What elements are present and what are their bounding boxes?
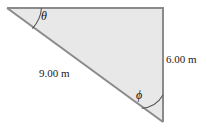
triangle-svg <box>0 0 207 132</box>
right-triangle-figure: 6.00 m 9.00 m θ ϕ <box>0 0 207 132</box>
side-label-hypotenuse: 9.00 m <box>39 68 70 79</box>
angle-label-phi: ϕ <box>136 89 142 101</box>
side-label-vertical: 6.00 m <box>166 54 197 65</box>
angle-label-theta: θ <box>41 10 47 22</box>
